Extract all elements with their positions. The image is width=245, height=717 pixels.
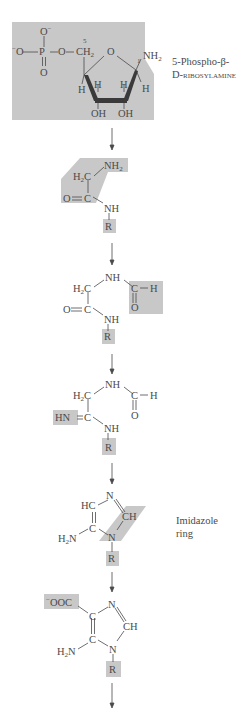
atom-r: R (109, 664, 116, 675)
atom-h2n: H2N (58, 533, 77, 544)
atom-c: C (84, 304, 91, 315)
atom-o-top: O− (40, 26, 52, 37)
atom-r: R (104, 331, 111, 342)
atom-p: P (39, 46, 45, 57)
atom-n-top: N (106, 490, 114, 501)
atom-nh-top: NH (105, 379, 120, 390)
atom-n: N (109, 644, 117, 655)
atom-nh: NH (104, 314, 119, 325)
atom-oh-left: OH (91, 108, 106, 119)
atom-h-c4: H (78, 84, 86, 95)
atom-c: C (89, 523, 96, 534)
atom-nh: NH (104, 203, 119, 214)
atom-r: R (105, 221, 112, 232)
compound-name-imidazole: Imidazole ring (176, 514, 218, 540)
atom-ch: CH (123, 621, 138, 632)
pathway-diagram: O− −O P O O 5 CH2 O 1 NH2 H H H H OH OH … (0, 0, 245, 717)
atom-nh2: NH2 (143, 50, 162, 61)
atom-n: N (108, 532, 116, 543)
atom-ch: CH (122, 511, 137, 522)
atom-n-top: N (108, 599, 116, 610)
carbon-number-1: 1 (137, 58, 141, 65)
atom-nh-top: NH (105, 272, 120, 283)
atom-h-c2: H (120, 79, 128, 90)
atom-nh2: NH2 (104, 160, 123, 171)
name-line-1: Imidazole (176, 514, 218, 527)
carbon-number-5: 5 (83, 38, 87, 45)
arrows (110, 128, 114, 708)
atom-oh-right: OH (118, 108, 133, 119)
atom-r: R (108, 553, 115, 564)
atom-ch2: CH2 (76, 46, 94, 57)
atom-h2c: H2C (73, 390, 91, 401)
atom-c-formyl: C (131, 283, 138, 294)
atom-r: R (105, 442, 112, 453)
atom-h-formyl: H (150, 390, 158, 401)
atom-c-top: C (89, 611, 96, 622)
atom-c: C (89, 634, 96, 645)
name-line-2: D-ribosylamine (172, 68, 236, 81)
atom-o-bridge: O (58, 46, 66, 57)
atom-o-formyl: O (131, 410, 139, 421)
atom-h2n: H2N (57, 646, 76, 657)
atom-o: O (63, 304, 71, 315)
name-line-1: 5-Phospho-β- (172, 55, 236, 68)
atom-o-left: −O (12, 46, 24, 57)
atom-h2c: H2C (73, 171, 91, 182)
name-line-2: ring (176, 527, 218, 540)
atom-c: C (84, 412, 91, 423)
atom-h-c1: H (142, 83, 150, 94)
atom-o-bottom: O (40, 67, 48, 78)
atom-h2c: H2C (73, 283, 91, 294)
atom-ring-o: O (107, 46, 115, 57)
atom-o: O (63, 193, 71, 204)
atom-o-formyl: O (131, 302, 139, 313)
compound-name-ribosylamine: 5-Phospho-β- D-ribosylamine (172, 55, 236, 81)
atom-nh: NH (104, 423, 119, 434)
atom-h-formyl: H (150, 283, 158, 294)
atom-hn: HN (55, 412, 70, 423)
atom-ooc: −OOC (46, 597, 72, 608)
atom-hc: HC (81, 500, 96, 511)
atom-c-formyl: C (131, 390, 138, 401)
atom-h-c3: H (94, 79, 102, 90)
atom-c: C (84, 193, 91, 204)
